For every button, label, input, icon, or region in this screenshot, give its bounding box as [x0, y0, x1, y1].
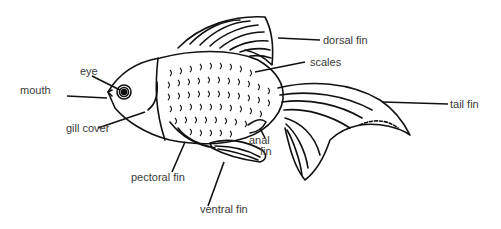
leader-lines — [67, 38, 448, 206]
eye-shape — [117, 85, 131, 99]
label-anal-fin-line2: fin — [260, 146, 272, 157]
scales-pattern — [168, 63, 270, 137]
label-mouth: mouth — [20, 85, 51, 96]
leader-tail-fin — [383, 102, 448, 104]
label-gill-cover: gill cover — [66, 123, 109, 134]
tail-fin-shape — [278, 84, 410, 180]
label-tail-fin: tail fin — [450, 99, 479, 110]
anal-fin-shape — [248, 120, 266, 133]
leader-mouth — [67, 96, 107, 98]
dorsal-fin-shape — [178, 17, 273, 65]
label-pectoral-fin: pectoral fin — [131, 172, 185, 183]
label-eye: eye — [80, 66, 98, 77]
label-dorsal-fin: dorsal fin — [323, 35, 368, 46]
label-ventral-fin: ventral fin — [200, 204, 248, 215]
leader-dorsal-fin — [278, 38, 320, 40]
leader-ventral-fin — [208, 162, 224, 206]
fish-diagram: eye mouth gill cover dorsal fin scales t… — [0, 0, 501, 229]
label-scales: scales — [310, 57, 341, 68]
leader-pectoral-fin — [172, 142, 185, 172]
body-outline — [108, 52, 283, 144]
fish-illustration — [0, 0, 501, 229]
leader-eye — [92, 76, 120, 90]
